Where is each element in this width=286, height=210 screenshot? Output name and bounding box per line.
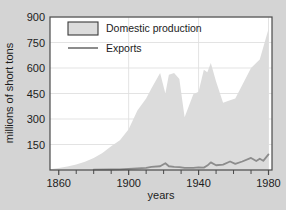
x-tick-label-1860: 1860	[46, 177, 70, 189]
x-tick-label-1900: 1900	[116, 177, 140, 189]
legend-swatch-domestic-production	[68, 22, 98, 35]
y-tick-label-150: 150	[27, 139, 45, 151]
y-tick-label-600: 600	[27, 62, 45, 74]
legend-label-exports: Exports	[106, 42, 142, 54]
y-tick-label-450: 450	[27, 88, 45, 100]
legend-label-domestic-production: Domestic production	[106, 22, 202, 34]
y-tick-label-750: 750	[27, 37, 45, 49]
x-axis-title: years	[148, 189, 175, 201]
chart-container: 150300450600750900 1860190019401980 year…	[0, 0, 286, 210]
x-tick-label-1980: 1980	[256, 177, 280, 189]
coal-production-exports-chart: 150300450600750900 1860190019401980 year…	[0, 0, 286, 210]
x-tick-label-1940: 1940	[186, 177, 210, 189]
y-tick-label-900: 900	[27, 11, 45, 23]
y-tick-label-300: 300	[27, 113, 45, 125]
y-axis-title: millions of short tons	[3, 42, 15, 143]
